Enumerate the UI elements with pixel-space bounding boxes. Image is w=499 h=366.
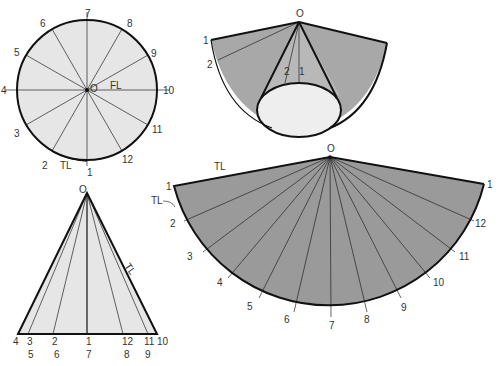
pt-label-9: 9	[151, 48, 157, 59]
pictorial-label-2-left: 2	[207, 59, 213, 70]
pictorial-label-1-left: 1	[203, 35, 209, 46]
pictorial-apex-label: O	[296, 8, 304, 19]
dev-label-3: 3	[187, 251, 193, 262]
dev-label-1-left: 1	[166, 181, 172, 192]
pictorial-label-2-inner: 2	[284, 66, 290, 77]
base-label-2: 2	[52, 336, 58, 347]
pt-label-12: 12	[122, 154, 134, 165]
development-pattern: O TL TL 1 2 3 4 5 6 7 8 9 10 11 12 1	[151, 143, 493, 331]
front-apex-label: O	[79, 184, 87, 195]
base-label-1: 1	[86, 336, 92, 347]
base-label-4: 4	[13, 336, 19, 347]
dev-tl-top-label: TL	[214, 161, 226, 172]
dev-label-10: 10	[433, 277, 445, 288]
base-label-8: 8	[124, 349, 130, 360]
base-label-3: 3	[27, 336, 33, 347]
dev-label-1-right: 1	[487, 179, 493, 190]
base-label-9: 9	[145, 349, 151, 360]
dev-label-5: 5	[247, 301, 253, 312]
pictorial-label-1-inner: 1	[299, 66, 305, 77]
pt-label-11: 11	[152, 124, 163, 135]
base-ellipse	[257, 83, 341, 137]
base-label-12: 12	[122, 336, 134, 347]
pt-label-7: 7	[85, 8, 91, 19]
dev-label-9: 9	[401, 302, 407, 313]
dev-label-2: 2	[170, 218, 176, 229]
base-label-10: 10	[157, 336, 169, 347]
pt-label-6: 6	[40, 18, 46, 29]
pt-label-1: 1	[87, 167, 93, 178]
dev-label-7: 7	[329, 320, 335, 331]
dev-label-4: 4	[217, 277, 223, 288]
fl-label: FL	[110, 80, 122, 91]
pt-label-5: 5	[14, 47, 20, 58]
cone-development-drawing: O FL TL 1 2 3 4 5 6 7 8 9 10 11 12 O TL …	[0, 0, 499, 366]
dev-label-8: 8	[364, 314, 370, 325]
center-point	[85, 88, 89, 92]
pt-label-8: 8	[127, 18, 133, 29]
dev-label-6: 6	[284, 314, 290, 325]
dev-tl-side-label: TL	[151, 195, 163, 206]
pt-label-2: 2	[42, 160, 48, 171]
base-label-5: 5	[28, 349, 34, 360]
dev-apex-label: O	[327, 143, 335, 154]
dev-label-11: 11	[459, 251, 470, 262]
cone-pictorial: O 1 2 2 1	[203, 8, 387, 137]
pt-label-10: 10	[163, 85, 175, 96]
front-view: O TL 4 3 2 1 12 11 10 5 6 7 8 9	[13, 184, 169, 360]
base-label-7: 7	[86, 349, 92, 360]
pt-label-3: 3	[14, 128, 20, 139]
dev-label-12: 12	[475, 218, 487, 229]
base-label-6: 6	[54, 349, 60, 360]
base-label-11: 11	[144, 336, 155, 347]
pt-label-4: 4	[1, 85, 7, 96]
center-label: O	[90, 83, 98, 94]
top-view: O FL TL 1 2 3 4 5 6 7 8 9 10 11 12	[1, 8, 175, 178]
tl-label-top: TL	[60, 160, 72, 171]
tl-leader-arrow	[163, 201, 175, 207]
